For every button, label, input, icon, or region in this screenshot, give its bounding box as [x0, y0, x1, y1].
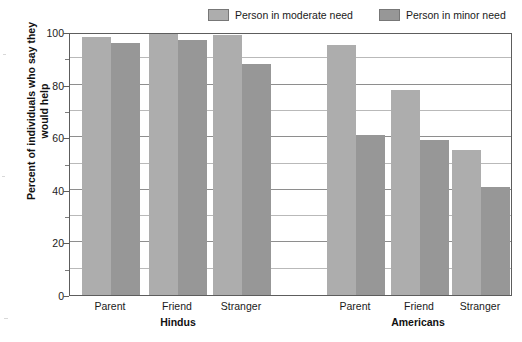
scan-artifact	[4, 318, 8, 319]
bar	[391, 90, 420, 295]
y-tick-mark	[63, 138, 69, 139]
y-tick-mark	[63, 33, 69, 34]
y-axis-labels: 100806040200	[20, 0, 64, 342]
y-tick-mark-minor	[65, 165, 69, 166]
legend-item-minor: Person in minor need	[379, 9, 506, 21]
y-tick-mark-minor	[65, 270, 69, 271]
bar	[327, 45, 356, 295]
bar	[213, 35, 242, 295]
legend-item-moderate: Person in moderate need	[208, 9, 353, 21]
legend-label-moderate: Person in moderate need	[235, 10, 353, 21]
y-tick-label: 80	[30, 81, 64, 91]
y-tick-label: 40	[30, 186, 64, 196]
y-tick-mark-minor	[65, 59, 69, 60]
plot-area	[69, 33, 512, 296]
y-tick-mark-minor	[65, 112, 69, 113]
x-group-label: Hindus	[118, 316, 238, 328]
bar	[356, 135, 385, 295]
scan-artifact	[3, 54, 6, 55]
y-tick-mark-minor	[65, 217, 69, 218]
y-tick-mark	[63, 191, 69, 192]
legend-swatch-icon-minor	[379, 9, 400, 21]
y-tick-mark	[63, 296, 69, 297]
y-tick-mark	[63, 86, 69, 87]
bar	[178, 40, 207, 295]
scan-artifact	[2, 176, 5, 177]
chart-legend: Person in moderate need Person in minor …	[208, 7, 518, 23]
y-tick-label: 20	[30, 238, 64, 248]
bar	[420, 140, 449, 295]
bar-chart: Person in moderate need Person in minor …	[0, 0, 522, 342]
bar	[149, 33, 178, 295]
legend-label-minor: Person in minor need	[406, 10, 506, 21]
y-tick-label: 60	[30, 133, 64, 143]
y-tick-mark	[63, 243, 69, 244]
bar	[242, 64, 271, 295]
y-tick-label: 100	[30, 28, 64, 38]
y-tick-label: 0	[30, 291, 64, 301]
x-group-label: Americans	[358, 316, 478, 328]
bar	[82, 37, 111, 295]
bar	[481, 187, 510, 295]
bar	[452, 150, 481, 295]
x-tick-label: Stranger	[196, 300, 286, 312]
legend-swatch-icon-moderate	[208, 9, 229, 21]
bar	[111, 43, 140, 295]
x-tick-label: Stranger	[435, 300, 522, 312]
